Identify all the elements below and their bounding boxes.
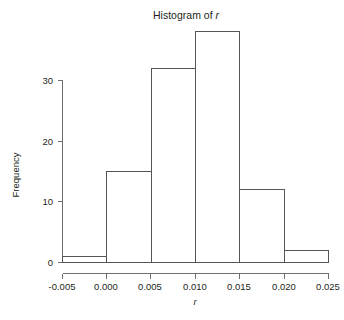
- histogram-bar: [196, 32, 240, 263]
- y-tick-label-10: 10: [42, 196, 53, 207]
- histogram-bar: [151, 68, 195, 262]
- histogram-bar: [284, 250, 328, 262]
- chart-title-variable: r: [215, 9, 219, 21]
- x-tick-label-1: 0.000: [94, 281, 118, 292]
- chart-title: Histogram of r: [153, 9, 219, 21]
- y-axis: 30 20 10 0 Frequency: [10, 75, 63, 268]
- histogram-bars: [63, 32, 329, 263]
- histogram-bar: [107, 172, 151, 263]
- x-tick-label-4: 0.015: [227, 281, 251, 292]
- histogram-bar: [240, 190, 284, 263]
- x-tick-label-5: 0.020: [272, 281, 296, 292]
- x-tick-label-3: 0.010: [183, 281, 207, 292]
- x-tick-label-6: 0.025: [316, 281, 340, 292]
- y-axis-title: Frequency: [10, 152, 21, 197]
- chart-title-prefix: Histogram of: [153, 9, 215, 21]
- histogram-figure: Histogram of r 30 20 10 0 Frequency: [0, 0, 344, 320]
- y-tick-label-20: 20: [42, 136, 53, 147]
- x-axis: -0.005 0.000 0.005 0.010 0.015 0.020 0.0…: [49, 274, 340, 308]
- histogram-plot: Histogram of r 30 20 10 0 Frequency: [0, 0, 344, 320]
- x-axis-title: r: [193, 296, 197, 307]
- y-tick-label-0: 0: [48, 257, 53, 268]
- histogram-bar: [63, 256, 107, 262]
- x-tick-label-2: 0.005: [138, 281, 162, 292]
- y-tick-label-30: 30: [42, 75, 53, 86]
- cropped-footer-text: [0, 308, 344, 320]
- x-tick-label-0: -0.005: [49, 281, 76, 292]
